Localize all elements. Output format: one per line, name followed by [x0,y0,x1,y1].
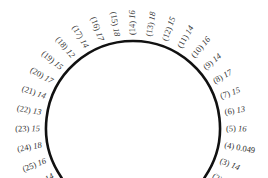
point-value: 14 [36,89,48,102]
point-id: (2) [211,171,226,178]
point-id: (15) [108,11,121,29]
point-id: (22) [16,103,34,116]
point-value: 0.049 [235,142,256,155]
point-id: (14) [127,19,137,35]
tunnel-arch-line [46,41,220,178]
point-id: (13) [143,19,156,37]
measurement-point-label: (3) 14 [218,156,241,173]
point-value: 15 [31,123,40,133]
point-value: 18 [32,139,43,151]
point-value: 18 [111,27,122,38]
measurement-point-label: (12) 15 [159,15,177,42]
measurement-point-label: (2) 13 [211,171,234,178]
point-value: 15 [230,85,241,97]
measurement-point-label: (20) 17 [29,65,56,86]
point-value: 16 [238,123,247,133]
measurement-point-label: (10) 16 [189,34,213,60]
measurement-point-label: (26) 14 [29,170,56,178]
measurement-point-label: (16) 17 [89,15,107,42]
measurement-point-label: (4) 0.049 [224,140,256,156]
measurement-point-label: (7) 15 [219,85,242,101]
point-value: 18 [146,10,157,21]
measurement-point-label: (14) 16 [127,9,137,35]
measurement-labels: (2) 13(3) 14(4) 0.049(5) 16(6) 13(7) 15(… [15,9,256,178]
point-id: (24) [16,141,34,154]
point-value: 16 [127,9,137,18]
measurement-point-label: (13) 18 [143,10,157,37]
measurement-point-label: (22) 13 [16,103,42,117]
measurement-point-label: (15) 18 [108,11,122,38]
measurement-point-label: (19) 15 [40,48,65,72]
measurement-point-label: (23) 15 [15,123,40,133]
arch-drawing: (2) 13(3) 14(4) 0.049(5) 16(6) 13(7) 15(… [0,0,268,178]
measurement-point-label: (9) 14 [201,50,224,71]
point-id: (5) [226,123,238,133]
measurement-point-label: (5) 16 [226,123,247,133]
measurement-point-label: (11) 14 [175,23,196,50]
measurement-point-label: (25) 16 [21,155,48,173]
point-id: (23) [15,123,31,133]
measurement-point-label: (17) 14 [70,23,91,50]
tunnel-arch-diagram: (2) 13(3) 14(4) 0.049(5) 16(6) 13(7) 15(… [0,0,268,178]
point-value: 17 [94,31,107,43]
measurement-point-label: (21) 14 [21,83,48,101]
point-value: 14 [230,160,242,173]
point-value: 14 [43,170,56,178]
measurement-point-label: (6) 13 [224,104,246,117]
measurement-point-label: (8) 17 [211,66,234,85]
point-value: 13 [32,106,42,117]
point-value: 13 [236,104,246,115]
measurement-point-label: (24) 18 [16,139,43,154]
point-value: 16 [36,155,48,168]
